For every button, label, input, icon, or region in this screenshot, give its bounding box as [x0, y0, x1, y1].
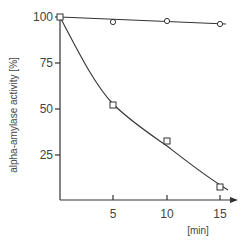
x-tick-15: 15: [213, 207, 227, 221]
activity-chart: 100 75 50 25 alpha-amylase activity [%] …: [0, 0, 249, 243]
y-tick-25: 25: [40, 148, 54, 162]
y-axis: 100 75 50 25 alpha-amylase activity [%]: [8, 10, 60, 200]
squares-fit-curve: [60, 17, 228, 190]
x-tick-5: 5: [110, 207, 117, 221]
x-axis-arrow-icon: [230, 197, 238, 203]
y-axis-title: alpha-amylase activity [%]: [8, 57, 19, 173]
square-marker: [217, 184, 223, 190]
y-tick-50: 50: [40, 102, 54, 116]
square-marker: [57, 14, 63, 20]
x-tick-10: 10: [160, 207, 174, 221]
y-tick-75: 75: [40, 56, 54, 70]
series-circles: [60, 17, 226, 27]
circles-fit-line: [60, 17, 226, 24]
circle-marker: [217, 21, 222, 26]
series-squares: [57, 14, 228, 190]
square-marker: [110, 102, 116, 108]
square-marker: [164, 138, 170, 144]
x-axis: 5 10 15 [min]: [60, 195, 238, 236]
x-axis-title: [min]: [187, 225, 209, 236]
y-tick-100: 100: [33, 10, 53, 24]
circle-marker: [164, 18, 169, 23]
circle-marker: [110, 19, 115, 24]
